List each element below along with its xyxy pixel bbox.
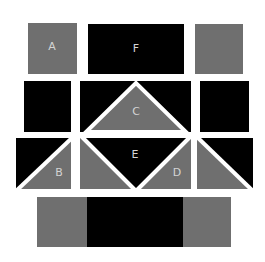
block-bottom-right xyxy=(183,197,231,247)
label-b: B xyxy=(55,166,63,179)
label-f: F xyxy=(133,42,139,55)
label-a: A xyxy=(48,40,56,53)
row-3: B E D xyxy=(15,135,254,192)
tangram-diagram: A F C B E D xyxy=(0,0,265,262)
row-4 xyxy=(37,197,231,247)
square-top-right xyxy=(195,24,243,74)
row-2: C xyxy=(24,81,249,132)
block-bottom-center xyxy=(87,197,183,247)
label-c: C xyxy=(132,105,140,118)
label-e: E xyxy=(132,148,139,161)
block-bottom-left xyxy=(37,197,87,247)
row-1: A F xyxy=(28,23,243,74)
square-mid-left xyxy=(24,81,73,132)
square-mid-right xyxy=(200,81,249,132)
label-d: D xyxy=(173,166,181,179)
